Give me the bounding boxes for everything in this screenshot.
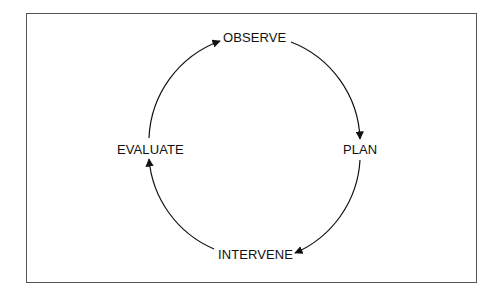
node-observe: OBSERVE: [223, 31, 286, 44]
arrow-observe-to-plan: [291, 42, 360, 139]
node-plan: PLAN: [343, 143, 377, 156]
arrow-intervene-to-evaluate: [149, 159, 214, 249]
node-evaluate: EVALUATE: [117, 143, 184, 156]
arrow-evaluate-to-observe: [149, 41, 220, 138]
node-intervene: INTERVENE: [218, 248, 293, 261]
arrow-plan-to-intervene: [295, 160, 360, 253]
